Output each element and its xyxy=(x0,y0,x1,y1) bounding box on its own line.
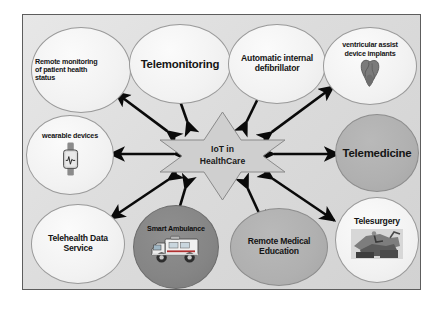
node-ventricular-assist-device-implants[interactable]: ventricular assist device implants xyxy=(323,27,417,105)
node-automatic-internal-defibrillator[interactable]: Automatic internal defibrillator xyxy=(228,24,326,104)
node-label-telemonitoring: Telemonitoring xyxy=(138,58,223,71)
heart-icon xyxy=(359,59,381,87)
node-telemonitoring[interactable]: Telemonitoring xyxy=(129,24,231,104)
node-label-telesurgery: Telesurgery xyxy=(351,217,403,227)
node-label-automatic-internal-defibrillator: Automatic internal defibrillator xyxy=(238,54,316,73)
node-label-wearable-devices: wearable devices xyxy=(39,132,101,140)
node-remote-monitoring[interactable]: Remote monitoring of patient health stat… xyxy=(31,27,131,113)
node-smart-ambulance[interactable]: Smart Ambulance xyxy=(133,205,219,289)
node-telehealth-data-service[interactable]: Telehealth Data Service xyxy=(31,204,125,284)
figure-root: IoT in HealthCare Remote monitoring of p… xyxy=(0,0,443,310)
node-telemedicine[interactable]: Telemedicine xyxy=(335,114,419,192)
node-label-telehealth-data-service: Telehealth Data Service xyxy=(45,234,111,253)
node-label-ventricular-assist-device-implants: ventricular assist device implants xyxy=(339,41,401,57)
center-star-label: IoT in HealthCare xyxy=(200,144,245,167)
node-wearable-devices[interactable]: wearable devices xyxy=(26,115,114,195)
diagram-panel: IoT in HealthCare Remote monitoring of p… xyxy=(22,14,421,290)
node-remote-medical-education[interactable]: Remote Medical Education xyxy=(230,208,328,286)
iot-in-healthcare-star[interactable]: IoT in HealthCare xyxy=(156,110,289,202)
node-telesurgery[interactable]: Telesurgery xyxy=(335,197,419,283)
ambulance-icon xyxy=(147,234,205,266)
node-label-remote-medical-education: Remote Medical Education xyxy=(245,237,314,256)
smartwatch-icon xyxy=(62,142,79,176)
node-label-smart-ambulance: Smart Ambulance xyxy=(144,225,208,233)
node-label-telemedicine: Telemedicine xyxy=(340,147,415,160)
node-label-remote-monitoring: Remote monitoring of patient health stat… xyxy=(31,58,131,82)
surgical-robot-icon xyxy=(350,228,404,260)
